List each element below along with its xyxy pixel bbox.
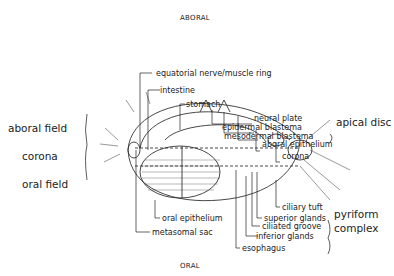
label-aboral-epithelium: aboral epithelium — [262, 140, 333, 149]
label-esophagus: esophagus — [242, 244, 285, 253]
label-inferior-glands: inferior glands — [256, 232, 314, 241]
label-intestine: intestine — [160, 86, 195, 95]
region-oral-field: oral field — [22, 178, 68, 190]
label-stomach: stomach — [186, 100, 220, 109]
region-corona: corona — [22, 150, 58, 162]
label-neural-plate: neural plate — [254, 114, 302, 123]
label-corona: corona — [282, 152, 309, 161]
label-oral-epithelium: oral epithelium — [162, 214, 223, 223]
label-ciliated-groove: ciliated groove — [262, 222, 321, 231]
label-epidermal-blastema: epidermal blastema — [222, 123, 302, 132]
label-metasomal-sac: metasomal sac — [152, 228, 213, 237]
group-complex: complex — [334, 222, 379, 234]
label-equatorial-ring: equatorial nerve/muscle ring — [156, 69, 272, 78]
group-pyriform: pyriform — [334, 208, 379, 220]
oral-pole-label: ORAL — [180, 262, 200, 271]
region-aboral-field: aboral field — [8, 122, 67, 134]
group-apical-disc: apical disc — [336, 116, 391, 128]
label-ciliary-tuft: ciliary tuft — [282, 203, 323, 212]
aboral-pole-label: ABORAL — [180, 14, 210, 23]
